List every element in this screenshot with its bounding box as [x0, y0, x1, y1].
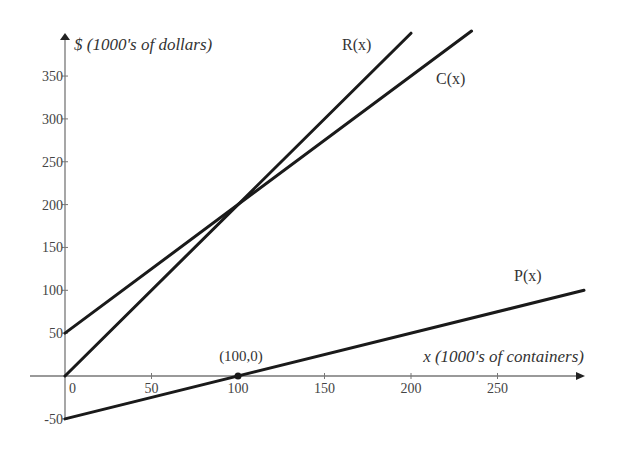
series-label: P(x) — [514, 267, 542, 285]
labels: $ (1000's of dollars)x (1000's of contai… — [74, 35, 584, 380]
y-tick-label: 300 — [42, 112, 63, 127]
x-tick-label: 200 — [401, 381, 422, 396]
y-tick-label: 100 — [42, 283, 63, 298]
x-tick-label: 150 — [314, 381, 335, 396]
y-tick-label: 350 — [42, 69, 63, 84]
break-even-point-marker — [235, 373, 242, 380]
break-even-chart: 050100150200250-5050100150200250300350 $… — [0, 0, 619, 467]
x-axis-arrow-icon — [576, 372, 585, 380]
y-tick-label: 50 — [49, 326, 63, 341]
y-axis-title: $ (1000's of dollars) — [74, 35, 213, 54]
x-tick-label: 50 — [145, 381, 159, 396]
series-label: R(x) — [342, 36, 371, 54]
x-tick-label: 250 — [487, 381, 508, 396]
series-line-cx — [65, 31, 472, 333]
series-label: C(x) — [436, 70, 465, 88]
y-tick-label: 250 — [42, 155, 63, 170]
y-tick-label: 200 — [42, 198, 63, 213]
y-tick-label: -50 — [44, 412, 63, 427]
x-tick-label: 0 — [69, 381, 76, 396]
y-tick-label: 150 — [42, 240, 63, 255]
axes: 050100150200250-5050100150200250300350 — [30, 33, 585, 427]
break-even-annotation: (100,0) — [219, 348, 263, 365]
y-axis-arrow-icon — [60, 33, 70, 40]
x-tick-label: 100 — [228, 381, 249, 396]
x-axis-title: x (1000's of containers) — [422, 347, 584, 366]
